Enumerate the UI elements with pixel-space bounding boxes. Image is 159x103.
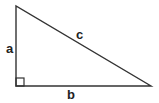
right-triangle-diagram: a b c [0,0,159,103]
right-angle-marker [16,78,24,86]
side-label-c: c [76,27,83,42]
side-label-a: a [6,41,14,56]
triangle-outline [16,6,151,86]
side-label-b: b [67,87,75,102]
